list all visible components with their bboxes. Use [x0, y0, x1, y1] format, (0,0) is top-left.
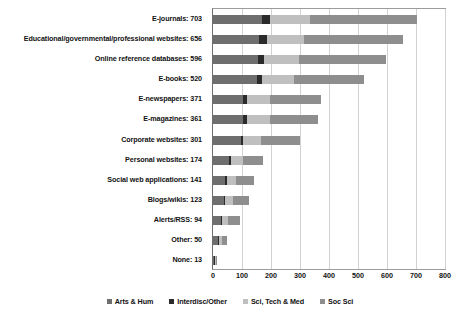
category-label: None: 13 [172, 255, 202, 264]
legend-label: Sci, Tech & Med [251, 297, 304, 306]
bar-segment[interactable] [213, 136, 241, 145]
bar-segment[interactable] [222, 236, 228, 245]
bar-row[interactable] [213, 115, 318, 124]
bar-segment[interactable] [270, 115, 318, 124]
bar-segment[interactable] [213, 95, 243, 104]
category-label: Online reference databases: 596 [95, 54, 202, 63]
bar-segment[interactable] [227, 176, 236, 185]
bar-segment[interactable] [213, 216, 221, 225]
bar-segment[interactable] [264, 55, 299, 64]
bar-segment[interactable] [299, 55, 386, 64]
bar-segment[interactable] [213, 196, 224, 205]
bar-segment[interactable] [213, 55, 258, 64]
plot-area [212, 8, 446, 270]
bar-segment[interactable] [225, 196, 233, 205]
bar-segment[interactable] [213, 75, 257, 84]
bar-row[interactable] [213, 55, 386, 64]
x-tick-label: 200 [265, 271, 277, 280]
bar-segment[interactable] [310, 15, 417, 24]
bar-row[interactable] [213, 95, 321, 104]
bar-row[interactable] [213, 216, 240, 225]
category-label: Blogs/wikis: 123 [148, 195, 202, 204]
x-tick-label: 800 [439, 271, 451, 280]
legend-item[interactable]: Interdisc/Other [169, 297, 227, 306]
bar-segment[interactable] [262, 75, 294, 84]
bar-segment[interactable] [261, 136, 300, 145]
bar-segment[interactable] [262, 15, 270, 24]
category-label: Personal websites: 174 [125, 155, 202, 164]
x-axis-ticks: 0100200300400500600700800 [212, 271, 446, 283]
bar-segment[interactable] [228, 216, 240, 225]
x-tick-label: 700 [410, 271, 422, 280]
gridline [416, 9, 417, 269]
legend-label: Soc Sci [328, 297, 353, 306]
bar-segment[interactable] [247, 95, 270, 104]
bar-row[interactable] [213, 35, 403, 44]
legend-swatch-icon [169, 299, 174, 304]
gridline [445, 9, 446, 269]
legend-swatch-icon [320, 299, 325, 304]
category-label: Alerts/RSS: 94 [154, 215, 202, 224]
category-label: E-magazines: 361 [143, 114, 202, 123]
bar-row[interactable] [213, 256, 217, 265]
bar-segment[interactable] [243, 156, 264, 165]
bar-segment[interactable] [231, 156, 243, 165]
bar-segment[interactable] [259, 35, 266, 44]
bar-row[interactable] [213, 156, 263, 165]
category-label: Educational/governmental/professional we… [24, 34, 202, 43]
bar-segment[interactable] [233, 196, 249, 205]
bar-segment[interactable] [216, 256, 217, 265]
bar-row[interactable] [213, 176, 254, 185]
legend-item[interactable]: Arts & Hum [107, 297, 154, 306]
category-label: E-books: 520 [158, 74, 202, 83]
bar-segment[interactable] [243, 136, 261, 145]
x-tick-label: 600 [381, 271, 393, 280]
gridline [358, 9, 359, 269]
category-label: Social web applications: 141 [107, 175, 202, 184]
bar-segment[interactable] [247, 115, 270, 124]
x-tick-label: 500 [352, 271, 364, 280]
category-label: Other: 50 [171, 235, 202, 244]
bar-segment[interactable] [236, 176, 254, 185]
category-label: Corporate websites: 301 [121, 135, 202, 144]
legend-item[interactable]: Soc Sci [320, 297, 353, 306]
chart-legend: Arts & HumInterdisc/OtherSci, Tech & Med… [0, 294, 460, 308]
bar-row[interactable] [213, 75, 364, 84]
bar-segment[interactable] [213, 15, 262, 24]
legend-swatch-icon [243, 299, 248, 304]
bar-segment[interactable] [213, 35, 259, 44]
bar-row[interactable] [213, 236, 227, 245]
bar-segment[interactable] [213, 115, 243, 124]
bar-row[interactable] [213, 136, 300, 145]
bar-segment[interactable] [213, 156, 229, 165]
bar-segment[interactable] [304, 35, 403, 44]
x-tick-label: 0 [211, 271, 215, 280]
bar-segment[interactable] [270, 95, 320, 104]
category-labels: E-journals: 703Educational/governmental/… [0, 8, 206, 270]
stacked-bar-chart: E-journals: 703Educational/governmental/… [0, 0, 460, 320]
bar-segment[interactable] [267, 35, 305, 44]
x-tick-label: 100 [236, 271, 248, 280]
bar-segment[interactable] [213, 176, 225, 185]
legend-label: Arts & Hum [115, 297, 154, 306]
x-tick-label: 300 [294, 271, 306, 280]
bar-segment[interactable] [294, 75, 364, 84]
category-label: E-newspapers: 371 [139, 94, 202, 103]
bar-segment[interactable] [270, 15, 309, 24]
gridline [387, 9, 388, 269]
bar-row[interactable] [213, 15, 417, 24]
legend-item[interactable]: Sci, Tech & Med [243, 297, 304, 306]
x-tick-label: 400 [323, 271, 335, 280]
legend-label: Interdisc/Other [177, 297, 227, 306]
gridline [329, 9, 330, 269]
legend-swatch-icon [107, 299, 112, 304]
bar-row[interactable] [213, 196, 249, 205]
category-label: E-journals: 703 [152, 14, 202, 23]
